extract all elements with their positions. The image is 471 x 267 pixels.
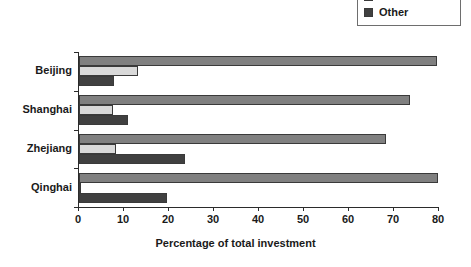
bar-shanghai-bonds — [79, 105, 113, 115]
legend-label-bonds: Bonds — [379, 0, 413, 2]
legend-label-other: Other — [379, 7, 408, 18]
x-axis-tick-label: 20 — [153, 214, 183, 225]
y-axis-tick — [74, 130, 78, 131]
legend-swatch-bonds — [364, 0, 373, 1]
x-axis-tick — [168, 207, 169, 211]
x-axis-tick-label: 50 — [288, 214, 318, 225]
bar-group — [79, 173, 438, 203]
bar-zhejiang-other — [79, 154, 185, 164]
x-axis-tick-label: 70 — [378, 214, 408, 225]
bar-group — [79, 134, 438, 164]
x-axis-tick-label: 80 — [423, 214, 453, 225]
plot-area: 01020304050607080 — [78, 52, 438, 207]
bar-qinghai-series1 — [79, 173, 438, 183]
x-axis-tick — [78, 207, 79, 211]
y-axis-tick — [74, 168, 78, 169]
x-axis-tick-label: 0 — [63, 214, 93, 225]
bar-shanghai-series1 — [79, 95, 410, 105]
bar-qinghai-bonds — [79, 183, 81, 193]
legend-swatch-other — [364, 8, 373, 17]
x-axis-tick-label: 10 — [108, 214, 138, 225]
x-axis-tick — [258, 207, 259, 211]
bar-beijing-bonds — [79, 66, 138, 76]
y-axis-tick — [74, 91, 78, 92]
x-axis-tick — [348, 207, 349, 211]
legend-entry-bonds: Bonds — [364, 0, 454, 4]
bar-group — [79, 95, 438, 125]
x-axis-tick — [303, 207, 304, 211]
x-axis-tick — [123, 207, 124, 211]
y-axis-tick — [74, 52, 78, 53]
bar-qinghai-other — [79, 193, 167, 203]
bar-group — [79, 56, 438, 86]
bar-beijing-other — [79, 76, 114, 86]
x-axis-tick-label: 30 — [198, 214, 228, 225]
y-axis-label-qinghai: Qinghai — [31, 182, 72, 193]
y-axis-category-labels: BeijingShanghaiZhejiangQinghai — [0, 52, 72, 207]
bar-zhejiang-series1 — [79, 134, 386, 144]
bar-beijing-series1 — [79, 56, 437, 66]
x-axis-tick — [438, 207, 439, 211]
x-axis-tick-label: 40 — [243, 214, 273, 225]
y-axis-label-zhejiang: Zhejiang — [27, 143, 72, 154]
bar-shanghai-other — [79, 115, 128, 125]
x-axis-tick — [213, 207, 214, 211]
x-axis-title: Percentage of total investment — [0, 237, 471, 249]
y-axis-label-shanghai: Shanghai — [22, 104, 72, 115]
legend-entry-other: Other — [364, 5, 454, 20]
x-axis-tick-label: 60 — [333, 214, 363, 225]
y-axis-label-beijing: Beijing — [35, 65, 72, 76]
chart-legend: Bonds Other — [357, 0, 461, 26]
x-axis-tick — [393, 207, 394, 211]
bar-zhejiang-bonds — [79, 144, 116, 154]
